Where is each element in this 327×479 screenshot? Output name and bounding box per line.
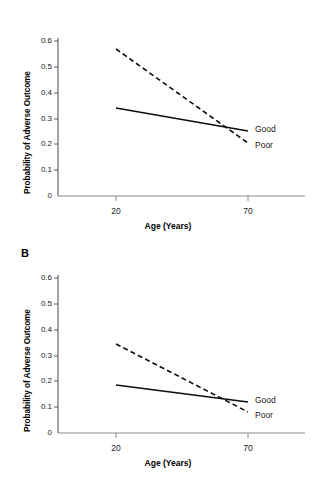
plot-area-b: [0, 240, 327, 479]
series-line-poor: [116, 344, 248, 412]
series-line-good: [116, 108, 248, 131]
series-line-poor: [116, 49, 248, 143]
plot-area-a: [0, 0, 327, 239]
chart-panel-b: B Probability of Adverse Outcome 0.6 0.5…: [0, 240, 327, 479]
series-line-good: [116, 385, 248, 402]
chart-panel-a: Probability of Adverse Outcome 0.6 0.5 0…: [0, 0, 327, 239]
